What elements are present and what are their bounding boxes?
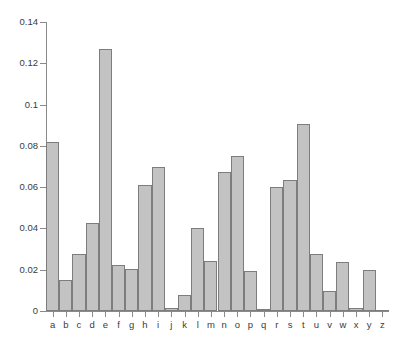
- x-axis-tick: [119, 312, 120, 317]
- bar-h: [138, 185, 151, 311]
- x-axis-tick-label-m: m: [204, 320, 217, 330]
- x-axis-tick-label-o: o: [231, 320, 244, 330]
- bar-n: [218, 172, 231, 311]
- x-axis-tick-label-j: j: [165, 320, 178, 330]
- bar-v: [323, 291, 336, 311]
- x-axis-tick: [185, 312, 186, 317]
- x-axis-tick-label-g: g: [125, 320, 138, 330]
- x-axis-tick-label-e: e: [99, 320, 112, 330]
- x-axis-tick: [105, 312, 106, 317]
- x-axis-tick: [92, 312, 93, 317]
- bar-p: [244, 271, 257, 311]
- x-axis-tick-label-s: s: [283, 320, 296, 330]
- x-axis-tick: [316, 312, 317, 317]
- bar-e: [99, 49, 112, 311]
- x-axis-tick: [79, 312, 80, 317]
- bar-y: [363, 270, 376, 311]
- bar-a: [46, 142, 59, 311]
- x-axis-tick-label-l: l: [191, 320, 204, 330]
- bar-b: [59, 280, 72, 311]
- x-axis-tick-label-w: w: [336, 320, 349, 330]
- x-axis-tick-label-k: k: [178, 320, 191, 330]
- x-axis-tick-label-i: i: [152, 320, 165, 330]
- bar-r: [270, 187, 283, 311]
- x-axis-tick-label-q: q: [257, 320, 270, 330]
- bar-i: [152, 167, 165, 311]
- x-axis-tick-label-c: c: [72, 320, 85, 330]
- x-axis-tick: [264, 312, 265, 317]
- bar-u: [310, 254, 323, 311]
- x-axis-tick: [356, 312, 357, 317]
- x-axis-tick: [330, 312, 331, 317]
- x-axis-tick-label-b: b: [59, 320, 72, 330]
- x-axis-tick: [198, 312, 199, 317]
- x-axis-tick-label-r: r: [270, 320, 283, 330]
- x-axis-tick: [382, 312, 383, 317]
- x-axis-tick: [158, 312, 159, 317]
- x-axis-tick: [171, 312, 172, 317]
- x-axis-tick-label-f: f: [112, 320, 125, 330]
- bar-chart: 00.020.040.060.080.10.120.14 abcdefghijk…: [0, 0, 401, 356]
- bar-t: [297, 124, 310, 311]
- x-axis-tick-label-a: a: [46, 320, 59, 330]
- bar-o: [231, 156, 244, 311]
- bar-g: [125, 269, 138, 311]
- x-axis-tick: [369, 312, 370, 317]
- x-axis-line: [46, 311, 389, 312]
- bar-m: [204, 261, 217, 311]
- x-axis-tick-label-u: u: [310, 320, 323, 330]
- x-axis-tick: [303, 312, 304, 317]
- x-axis-tick-label-n: n: [218, 320, 231, 330]
- x-axis-tick: [237, 312, 238, 317]
- x-axis-tick: [211, 312, 212, 317]
- x-axis-tick-label-d: d: [86, 320, 99, 330]
- x-axis-tick: [290, 312, 291, 317]
- x-axis-tick-label-t: t: [297, 320, 310, 330]
- x-axis-tick-label-z: z: [376, 320, 389, 330]
- x-axis-tick: [53, 312, 54, 317]
- bar-w: [336, 262, 349, 311]
- x-axis-tick-label-y: y: [363, 320, 376, 330]
- x-axis-tick: [224, 312, 225, 317]
- x-axis-tick-label-p: p: [244, 320, 257, 330]
- bar-c: [72, 254, 85, 311]
- x-axis-tick-label-v: v: [323, 320, 336, 330]
- bar-s: [283, 180, 296, 311]
- bar-k: [178, 295, 191, 311]
- x-axis-tick: [145, 312, 146, 317]
- bar-l: [191, 228, 204, 311]
- x-axis-tick: [132, 312, 133, 317]
- x-axis-tick-label-h: h: [138, 320, 151, 330]
- bar-d: [86, 223, 99, 311]
- x-axis-tick: [343, 312, 344, 317]
- x-axis-tick: [66, 312, 67, 317]
- bars-layer: [0, 0, 401, 356]
- x-axis-tick-label-x: x: [349, 320, 362, 330]
- x-axis-tick: [277, 312, 278, 317]
- x-axis-tick: [250, 312, 251, 317]
- bar-f: [112, 265, 125, 311]
